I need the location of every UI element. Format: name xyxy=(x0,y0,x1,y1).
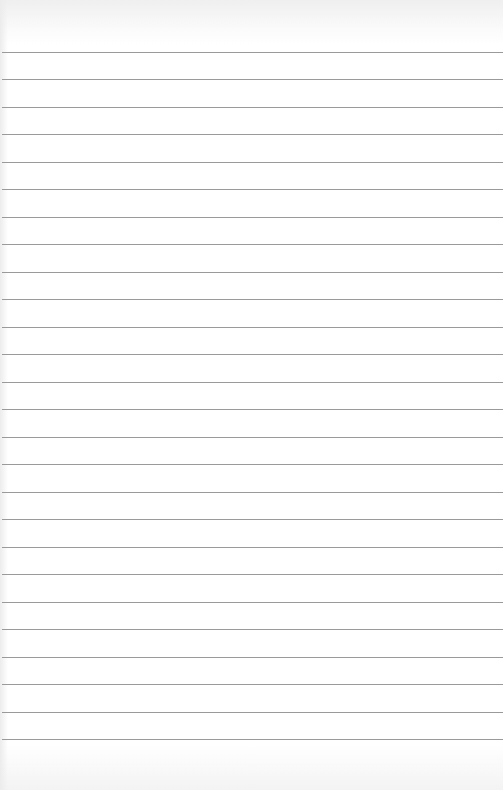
ruled-line xyxy=(2,739,503,740)
ruled-line xyxy=(2,602,503,603)
ruled-line xyxy=(2,712,503,713)
ruled-line xyxy=(2,217,503,218)
ruled-line xyxy=(2,464,503,465)
ruled-line xyxy=(2,547,503,548)
ruled-line xyxy=(2,354,503,355)
ruled-line xyxy=(2,244,503,245)
paper-left-edge xyxy=(0,0,8,790)
ruled-line xyxy=(2,299,503,300)
ruled-line xyxy=(2,409,503,410)
ruled-line xyxy=(2,272,503,273)
ruled-line xyxy=(2,162,503,163)
ruled-line xyxy=(2,327,503,328)
ruled-line xyxy=(2,657,503,658)
ruled-line xyxy=(2,519,503,520)
ruled-line xyxy=(2,189,503,190)
ruled-line xyxy=(2,382,503,383)
ruled-line xyxy=(2,79,503,80)
lined-paper-sheet xyxy=(0,0,503,790)
ruled-line xyxy=(2,492,503,493)
ruled-line xyxy=(2,437,503,438)
ruled-line xyxy=(2,107,503,108)
ruled-line xyxy=(2,684,503,685)
ruled-line xyxy=(2,629,503,630)
ruled-line xyxy=(2,134,503,135)
ruled-line xyxy=(2,574,503,575)
ruled-line xyxy=(2,52,503,53)
